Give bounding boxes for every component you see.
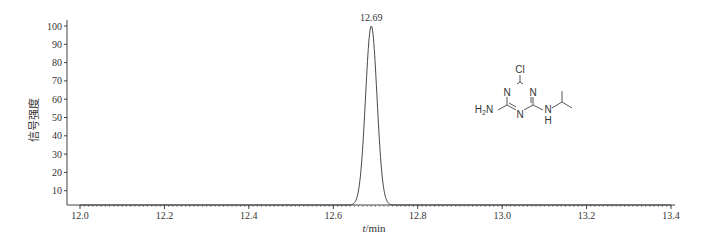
nh-h-atom: H xyxy=(544,115,551,126)
y-tick-label: 30 xyxy=(52,149,62,160)
y-tick-label: 90 xyxy=(52,39,62,50)
n-atom: N xyxy=(529,87,536,98)
y-tick-label: 20 xyxy=(52,167,62,178)
cl-atom: Cl xyxy=(515,64,524,75)
y-tick-label: 70 xyxy=(52,75,62,86)
y-tick-label: 60 xyxy=(52,94,62,105)
x-axis-title-unit: /min xyxy=(365,222,386,234)
y-tick-label: 10 xyxy=(52,185,62,196)
x-axis-title: t/min xyxy=(362,222,386,234)
chromatogram-trace xyxy=(80,26,671,205)
y-axis-title: 信号强度 xyxy=(27,98,40,142)
peak-label: 12.69 xyxy=(360,12,383,23)
y-tick-label: 80 xyxy=(52,57,62,68)
y-tick-label: 40 xyxy=(52,130,62,141)
amino-group: H2N xyxy=(475,104,493,116)
nh-n-atom: N xyxy=(544,104,551,115)
x-tick-label: 12.6 xyxy=(325,210,343,221)
chromatogram-chart: 102030405060708090100 12.012.212.412.612… xyxy=(0,0,705,243)
y-tick-label: 100 xyxy=(47,21,62,32)
structure-labels: Cl N N N H2N N H xyxy=(475,64,552,126)
y-ticks: 102030405060708090100 xyxy=(47,21,67,197)
n-atom: N xyxy=(503,87,510,98)
n-atom: N xyxy=(516,109,523,120)
x-tick-label: 13.4 xyxy=(662,210,680,221)
x-tick-label: 12.0 xyxy=(71,210,89,221)
x-ticks: 12.012.212.412.612.813.013.213.4 xyxy=(71,205,680,221)
x-tick-label: 12.2 xyxy=(156,210,174,221)
x-tick-label: 12.4 xyxy=(240,210,258,221)
x-tick-label: 12.8 xyxy=(409,210,427,221)
y-tick-label: 50 xyxy=(52,112,62,123)
x-tick-label: 13.2 xyxy=(578,210,596,221)
x-tick-label: 13.0 xyxy=(493,210,511,221)
